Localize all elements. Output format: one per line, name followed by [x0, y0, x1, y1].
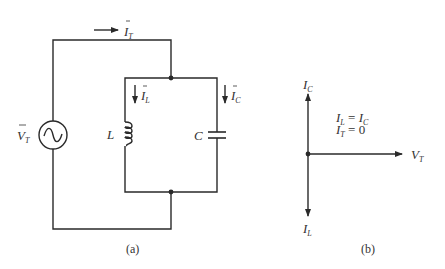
total-current-label: IT: [123, 21, 133, 41]
svg-text:IC: IC: [230, 88, 241, 105]
inner-top-wire: [125, 78, 217, 132]
outer-bottom-wire: [53, 149, 171, 229]
source-voltage-label: VT: [17, 125, 30, 145]
parallel-lc-circuit-figure: IT IL IC VT L C (a) IC IL VT IL = IC IT …: [0, 0, 445, 269]
top-junction-dot: [169, 76, 174, 81]
inductor-label: L: [106, 127, 114, 142]
outer-top-wire: [53, 40, 171, 121]
il-phasor-label: IL: [302, 221, 312, 238]
svg-text:IL: IL: [140, 88, 150, 105]
panel-a-caption: (a): [126, 242, 139, 256]
capacitor-current-label: IC: [230, 86, 241, 105]
panel-b-caption: (b): [361, 242, 375, 256]
svg-text:VT: VT: [17, 128, 30, 145]
ac-source-icon: [39, 121, 67, 149]
circuit-panel-a: IT IL IC VT L C (a): [17, 21, 241, 256]
vt-phasor-label: VT: [411, 147, 424, 164]
ic-phasor-label: IC: [302, 77, 313, 94]
phasor-origin-dot: [306, 152, 311, 157]
inductor-coil-icon: [125, 122, 132, 146]
svg-text:IT: IT: [123, 24, 133, 41]
bottom-junction-dot: [169, 190, 174, 195]
capacitor-label: C: [194, 128, 203, 143]
inductor-current-label: IL: [140, 86, 150, 105]
phasor-panel-b: IC IL VT IL = IC IT = 0 (b): [302, 77, 424, 256]
capacitor-icon: [208, 132, 226, 138]
equation-it-equals-zero: IT = 0: [335, 122, 365, 139]
inner-bottom-wire: [125, 138, 217, 192]
